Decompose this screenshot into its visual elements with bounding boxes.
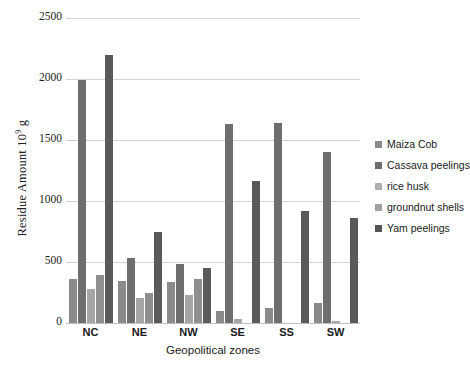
legend-label: Yam peelings (387, 222, 450, 234)
legend-item-rice-husk[interactable]: rice husk (375, 180, 470, 192)
bar-ne-yam-peelings (154, 232, 162, 323)
bar-sw-cassava-peelings (323, 152, 331, 323)
bar-group-ne (115, 18, 164, 323)
bar-nc-groundnut-shells (87, 289, 95, 323)
chart-legend: Maiza CobCassava peelingsrice huskground… (375, 138, 470, 234)
legend-label: Maiza Cob (387, 138, 437, 150)
legend-label: groundnut shells (387, 201, 464, 213)
bar-nw-yam-peelings (203, 268, 211, 324)
bar-se-cassava-peelings (225, 124, 233, 323)
gridline-0 (66, 323, 360, 324)
bar-se-rice-husk (234, 319, 242, 323)
bar-ne-rice-husk (136, 298, 144, 323)
bar-group-nw (164, 18, 213, 323)
x-axis-title: Geopolitical zones (66, 344, 360, 356)
bar-ne-cassava-peelings (127, 258, 135, 323)
bar-group-sw (311, 18, 360, 323)
bar-ss-yam-peelings (301, 211, 309, 323)
bar-se-maiza-cob (216, 311, 224, 323)
legend-swatch-icon (375, 204, 382, 211)
bar-nw-maiza-cob (167, 282, 175, 323)
y-tick-label-1000: 1000 (18, 193, 62, 205)
bar-group-nc (66, 18, 115, 323)
bar-nw-cassava-peelings (176, 264, 184, 323)
bar-group-se (213, 18, 262, 323)
legend-label: rice husk (387, 180, 429, 192)
bar-ss-maiza-cob (265, 308, 273, 323)
legend-item-yam-peelings[interactable]: Yam peelings (375, 222, 470, 234)
y-tick-label-0: 0 (18, 315, 62, 327)
y-tick-label-1500: 1500 (18, 132, 62, 144)
bar-groups (66, 18, 360, 323)
bar-se-yam-peelings (252, 181, 260, 323)
x-tick-label-sw: SW (311, 326, 360, 338)
y-tick-label-2500: 2500 (18, 10, 62, 22)
legend-swatch-icon (375, 225, 382, 232)
bar-nw-rice-husk (185, 295, 193, 323)
bar-nw-groundnut-shells (194, 279, 202, 323)
y-axis-ticks: 25002000150010005000 (18, 18, 62, 323)
bar-sw-maiza-cob (314, 303, 322, 323)
bar-nc-yam-peelings (105, 55, 113, 323)
legend-item-groundnut-shells[interactable]: groundnut shells (375, 201, 470, 213)
bar-ne-groundnut-shells (145, 293, 153, 324)
bar-nc-cassava-peelings (96, 275, 104, 323)
legend-swatch-icon (375, 162, 382, 169)
x-tick-label-nw: NW (164, 326, 213, 338)
legend-swatch-icon (375, 183, 382, 190)
bar-nc-rice-husk (78, 80, 86, 323)
legend-item-cassava-peelings[interactable]: Cassava peelings (375, 159, 470, 171)
bar-ss-cassava-peelings (274, 123, 282, 323)
legend-label: Cassava peelings (387, 159, 470, 171)
y-tick-label-500: 500 (18, 254, 62, 266)
bar-sw-rice-husk (332, 321, 340, 323)
plot-area (66, 18, 360, 323)
x-tick-label-se: SE (213, 326, 262, 338)
bar-group-ss (262, 18, 311, 323)
x-tick-label-ne: NE (115, 326, 164, 338)
x-tick-label-nc: NC (66, 326, 115, 338)
bar-sw-yam-peelings (350, 218, 358, 323)
x-tick-label-ss: SS (262, 326, 311, 338)
legend-swatch-icon (375, 141, 382, 148)
bar-ne-maiza-cob (118, 281, 126, 323)
y-tick-label-2000: 2000 (18, 71, 62, 83)
legend-item-maiza-cob[interactable]: Maiza Cob (375, 138, 470, 150)
x-axis-ticks: NCNENWSESSSW (66, 326, 360, 338)
bar-nc-maiza-cob (69, 279, 77, 323)
